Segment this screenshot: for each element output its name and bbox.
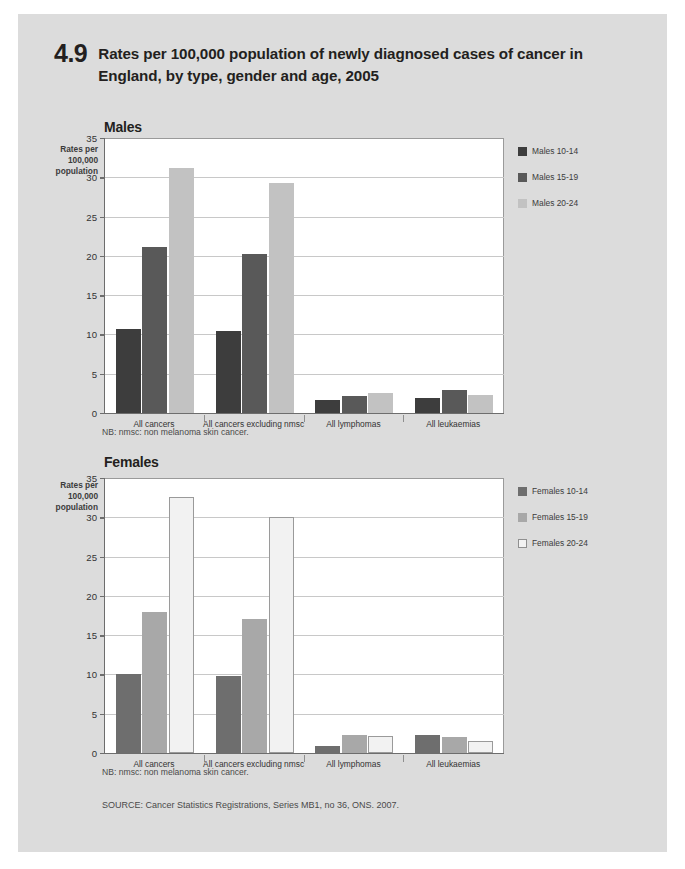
plot-frame-right-females bbox=[503, 478, 504, 753]
x-axis-category-label: All lymphomas bbox=[326, 759, 380, 769]
y-axis-tick-label: 20 bbox=[71, 590, 97, 601]
legend-item-males-1[interactable]: Males 10-14 bbox=[518, 146, 578, 156]
legend-item-males-3[interactable]: Males 20-24 bbox=[518, 198, 578, 208]
legend-label: Males 10-14 bbox=[532, 146, 578, 156]
bar-males-3-1 bbox=[315, 400, 340, 413]
legend-swatch-icon bbox=[518, 539, 527, 548]
y-axis-tick-label: 20 bbox=[71, 250, 97, 261]
y-axis-tick-label: 15 bbox=[71, 630, 97, 641]
legend-females: Females 10-14Females 15-19Females 20-24 bbox=[518, 486, 588, 564]
legend-item-females-2[interactable]: Females 15-19 bbox=[518, 512, 588, 522]
figure-page: 4.9 Rates per 100,000 population of newl… bbox=[18, 14, 667, 852]
y-axis-tick-mark bbox=[100, 674, 104, 675]
y-axis-tick-mark bbox=[100, 256, 104, 257]
legend-item-females-3[interactable]: Females 20-24 bbox=[518, 538, 588, 548]
y-axis-tick-label: 15 bbox=[71, 290, 97, 301]
y-axis-tick-label: 5 bbox=[71, 368, 97, 379]
y-axis-tick-mark bbox=[100, 413, 104, 414]
legend-label: Females 10-14 bbox=[532, 486, 588, 496]
legend-label: Females 15-19 bbox=[532, 512, 588, 522]
legend-swatch-icon bbox=[518, 173, 527, 182]
y-axis-tick-label: 30 bbox=[71, 512, 97, 523]
bar-males-2-2 bbox=[242, 254, 267, 414]
legend-swatch-icon bbox=[518, 513, 527, 522]
x-axis-category-label: All cancers bbox=[133, 759, 174, 769]
bar-males-2-1 bbox=[216, 331, 241, 413]
legend-swatch-icon bbox=[518, 199, 527, 208]
y-axis-tick-mark bbox=[100, 374, 104, 375]
y-axis-caption-females: Rates per 100,000 population bbox=[38, 480, 98, 514]
y-axis-tick-mark bbox=[100, 517, 104, 518]
y-axis-tick-mark bbox=[100, 138, 104, 139]
y-axis-tick-label: 5 bbox=[71, 708, 97, 719]
y-axis-tick-mark bbox=[100, 753, 104, 754]
y-axis-tick-mark bbox=[100, 635, 104, 636]
gridline bbox=[105, 557, 504, 558]
gridline bbox=[105, 177, 504, 178]
x-axis-category-label: All lymphomas bbox=[326, 419, 380, 429]
legend-males: Males 10-14Males 15-19Males 20-24 bbox=[518, 146, 578, 224]
bar-males-4-3 bbox=[468, 395, 493, 413]
bar-males-3-2 bbox=[342, 396, 367, 413]
gridline bbox=[105, 517, 504, 518]
x-axis-group-separator bbox=[304, 755, 305, 762]
bar-males-1-1 bbox=[116, 329, 141, 413]
x-axis-group-separator bbox=[403, 415, 404, 422]
y-axis-tick-mark bbox=[100, 295, 104, 296]
y-axis-tick-mark bbox=[100, 557, 104, 558]
bar-males-1-3 bbox=[169, 168, 194, 413]
bar-females-2-1 bbox=[216, 676, 241, 753]
bar-females-3-3 bbox=[368, 736, 393, 753]
y-axis-tick-label: 25 bbox=[71, 551, 97, 562]
x-axis-category-label: All cancers excluding nmsc bbox=[203, 419, 304, 429]
bar-females-1-3 bbox=[169, 497, 194, 753]
legend-label: Males 15-19 bbox=[532, 172, 578, 182]
x-axis-category-label: All leukaemias bbox=[426, 419, 480, 429]
y-axis-tick-mark bbox=[100, 478, 104, 479]
bar-females-2-2 bbox=[242, 619, 267, 753]
bar-males-3-3 bbox=[368, 393, 393, 413]
bar-females-4-3 bbox=[468, 741, 493, 753]
bar-females-1-1 bbox=[116, 674, 141, 753]
bar-females-4-2 bbox=[442, 737, 467, 754]
x-axis-category-label: All leukaemias bbox=[426, 759, 480, 769]
y-axis-tick-label: 35 bbox=[71, 473, 97, 484]
bar-females-2-3 bbox=[269, 517, 294, 754]
y-axis-tick-mark bbox=[100, 714, 104, 715]
bar-males-1-2 bbox=[142, 247, 167, 413]
y-axis-tick-label: 10 bbox=[71, 329, 97, 340]
bar-males-4-2 bbox=[442, 390, 467, 413]
y-axis-tick-mark bbox=[100, 596, 104, 597]
plot-frame-top-females bbox=[105, 478, 504, 479]
plot-frame-top-males bbox=[105, 138, 504, 139]
bar-females-1-2 bbox=[142, 612, 167, 753]
legend-swatch-icon bbox=[518, 487, 527, 496]
bar-males-2-3 bbox=[269, 183, 294, 413]
plot-area-males bbox=[104, 138, 504, 414]
y-axis-tick-label: 35 bbox=[71, 133, 97, 144]
y-axis-tick-label: 30 bbox=[71, 172, 97, 183]
gridline bbox=[105, 596, 504, 597]
legend-item-females-1[interactable]: Females 10-14 bbox=[518, 486, 588, 496]
x-axis-category-label: All cancers excluding nmsc bbox=[203, 759, 304, 769]
legend-item-males-2[interactable]: Males 15-19 bbox=[518, 172, 578, 182]
legend-label: Females 20-24 bbox=[532, 538, 588, 548]
bar-males-4-1 bbox=[415, 398, 440, 413]
x-axis-category-label: All cancers bbox=[133, 419, 174, 429]
chart-title-females: Females bbox=[104, 454, 159, 470]
bar-females-3-1 bbox=[315, 746, 340, 753]
y-axis-tick-mark bbox=[100, 334, 104, 335]
y-axis-tick-label: 0 bbox=[71, 408, 97, 419]
y-axis-tick-label: 0 bbox=[71, 748, 97, 759]
y-axis-tick-mark bbox=[100, 217, 104, 218]
x-axis-group-separator bbox=[304, 415, 305, 422]
plot-area-females bbox=[104, 478, 504, 754]
y-axis-tick-label: 25 bbox=[71, 211, 97, 222]
legend-swatch-icon bbox=[518, 147, 527, 156]
y-axis-tick-mark bbox=[100, 177, 104, 178]
legend-label: Males 20-24 bbox=[532, 198, 578, 208]
figure-source: SOURCE: Cancer Statistics Registrations,… bbox=[102, 800, 399, 810]
x-axis-group-separator bbox=[403, 755, 404, 762]
gridline bbox=[105, 217, 504, 218]
plot-frame-right-males bbox=[503, 138, 504, 413]
